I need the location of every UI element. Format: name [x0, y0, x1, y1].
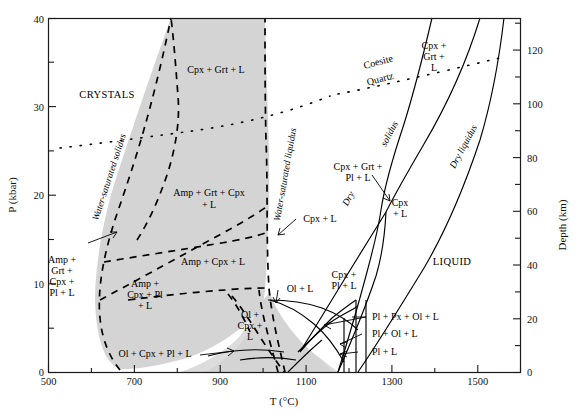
y-right-tick-label: 100	[527, 99, 543, 110]
water-saturated-liquidus-label: Water-saturated liquidus	[272, 127, 298, 222]
y-left-tick-label: 40	[34, 14, 45, 25]
region-label-ol-cpx-pl-l: Ol + Cpx + Pl + L	[118, 348, 191, 359]
x-tick-label: 700	[127, 376, 143, 387]
x-tick-label: 1100	[296, 376, 317, 387]
y-left-tick-label: 0	[39, 367, 44, 378]
region-label-amp-cpx-pl-l-line2: Cpx + Pl	[127, 289, 163, 300]
region-label-amp-cpx-pl-l-line1: Amp +	[131, 278, 160, 289]
region-label-cpx-l: Cpx + L	[303, 213, 336, 224]
y-right-axis-title: Depth (km)	[556, 199, 569, 250]
region-label-cpx-pl-l-line2: Pl + L	[331, 280, 356, 291]
region-label-cpx-grt-l-right-line3: L	[431, 62, 437, 73]
y-right-tick-label: 60	[527, 206, 538, 217]
region-label-pl-l: Pl + L	[372, 346, 397, 357]
y-left-tick-label: 20	[34, 190, 45, 201]
region-label-crystals: CRYSTALS	[79, 89, 134, 100]
y-left-tick-label: 30	[34, 102, 45, 113]
region-label-cpx-grt-l-right-line2: Grt +	[423, 51, 445, 62]
region-label-cpx-grt-l-right-line1: Cpx +	[422, 40, 447, 51]
region-label-amp-cpx-pl-l-line3: + L	[138, 300, 152, 311]
region-label-ol-cpx-l-line2: Cpx +	[238, 320, 263, 331]
region-label-amp-grt-cpx-pl-l-line1: Amp +	[48, 254, 77, 265]
region-label-cpx-pl-l-line1: Cpx +	[332, 269, 357, 280]
y-right-tick-labels: 0 20 40 60 80 100 120	[527, 45, 543, 378]
y-right-axis-ticks	[513, 23, 521, 372]
y-left-tick-label: 10	[34, 279, 45, 290]
region-label-quartz: Quartz	[366, 70, 396, 88]
region-label-pl-px-ol-l: Pl + Px + Ol + L	[372, 311, 439, 322]
x-tick-labels: 500 700 900 1100 1300 1500	[41, 376, 489, 387]
phase-diagram-svg: 500 700 900 1100 1300 1500 T (°C) 0 10 2…	[0, 0, 582, 416]
x-axis-title: T (°C)	[270, 395, 299, 408]
dry-liquidus-label: Dry liquidus	[447, 123, 479, 171]
x-tick-label: 1300	[381, 376, 402, 387]
region-label-cpx-grt-l: Cpx + Grt + L	[187, 64, 244, 75]
y-right-tick-label: 120	[527, 45, 543, 56]
region-label-amp-grt-cpx-pl-l-line3: Cpx +	[50, 276, 75, 287]
y-right-tick-label: 20	[527, 314, 538, 325]
y-right-tick-label: 0	[527, 367, 532, 378]
region-label-cpx-l-right-line2: + L	[393, 208, 407, 219]
region-label-coesite: Coesite	[362, 52, 394, 71]
phase-diagram-figure: 500 700 900 1100 1300 1500 T (°C) 0 10 2…	[0, 0, 582, 416]
region-label-ol-cpx-l-line1: Ol +	[241, 309, 260, 320]
dry-solidus-label-part1: Dry	[340, 189, 357, 208]
region-label-amp-grt-cpx-pl-l-line2: Grt +	[51, 265, 73, 276]
region-label-liquid: LIQUID	[433, 256, 472, 267]
y-left-axis-title: P (kbar)	[6, 177, 19, 213]
region-label-amp-grt-cpx-l-line2: + L	[202, 199, 216, 210]
region-label-pl-ol-l: Pl + Ol + L	[372, 328, 418, 339]
region-label-amp-grt-cpx-pl-l-line4: Pl + L	[49, 287, 74, 298]
region-label-amp-cpx-l: Amp + Cpx + L	[181, 256, 245, 267]
region-label-amp-grt-cpx-l-line1: Amp + Grt + Cpx	[173, 187, 244, 198]
x-tick-label: 900	[212, 376, 228, 387]
y-right-tick-label: 40	[527, 260, 538, 271]
region-label-cpx-grt-pl-l-line2: Pl + L	[345, 172, 370, 183]
y-left-tick-labels: 0 10 20 30 40	[34, 14, 45, 379]
x-tick-label: 1500	[467, 376, 488, 387]
region-label-cpx-l-right-line1: Cpx	[392, 197, 409, 208]
dry-solidus-label-part2: solidus	[379, 119, 401, 148]
region-label-cpx-grt-pl-l-line1: Cpx + Grt +	[334, 161, 383, 172]
y-right-tick-label: 80	[527, 153, 538, 164]
region-label-ol-l: Ol + L	[287, 283, 314, 294]
y-left-axis-ticks	[49, 19, 57, 373]
region-label-ol-cpx-l-line3: L	[247, 331, 253, 342]
